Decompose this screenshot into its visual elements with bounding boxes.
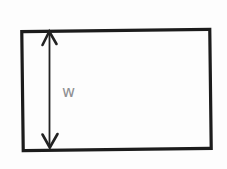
figure-svg: w	[0, 0, 227, 169]
width-label: w	[62, 82, 76, 101]
diagram-canvas: w	[0, 0, 227, 169]
